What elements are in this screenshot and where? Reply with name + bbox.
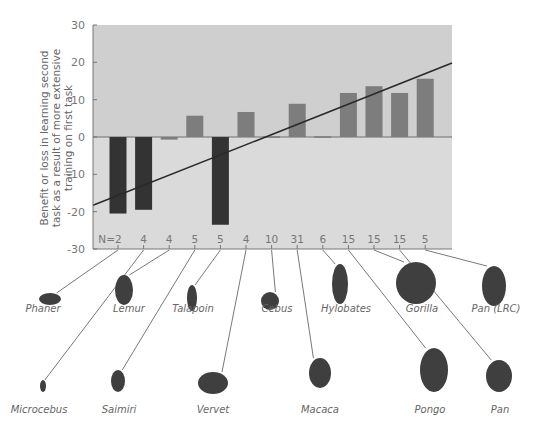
n-label: 15 (393, 233, 406, 245)
n-label: 4 (166, 233, 173, 245)
n-label: N=2 (98, 233, 121, 245)
n-label: 15 (342, 233, 355, 245)
leader-line (323, 250, 335, 264)
y-axis-label-line-3: training on first task (62, 18, 74, 258)
n-label: 5 (217, 233, 224, 245)
bar-pongo (340, 93, 357, 137)
y-axis-label-line-2: task as a result of more extensive (50, 18, 62, 258)
animal-label-pongo: Pongo (415, 404, 446, 415)
hylobates-icon (332, 264, 348, 304)
y-axis-label-line-1: Benefit or loss in learning second (38, 18, 50, 258)
microcebus-icon (40, 380, 46, 392)
bar-pan-lrc (417, 79, 434, 137)
leader-line (297, 250, 313, 358)
animal-label-gorilla: Gorilla (406, 303, 438, 314)
bar-lemur (161, 137, 178, 140)
pan-icon (486, 360, 512, 392)
animal-label-saimiri: Saimiri (102, 404, 137, 415)
bar-chart: 3020100-10-20-30 N=244554103161515155 (0, 0, 536, 436)
animal-label-pan-lrc: Pan (LRC) (472, 303, 521, 314)
animal-label-cebus: Cebus (261, 303, 292, 314)
animal-label-hylobates: Hylobates (321, 303, 371, 314)
n-label: 10 (265, 233, 278, 245)
vervet-icon (198, 372, 228, 394)
n-label: 4 (140, 233, 147, 245)
bar-vervet (238, 112, 255, 137)
gorilla-icon (396, 262, 436, 304)
animal-label-lemur: Lemur (113, 303, 145, 314)
bar-saimiri (186, 116, 203, 137)
saimiri-icon (111, 370, 125, 392)
animal-label-microcebus: Microcebus (11, 404, 68, 415)
leader-line (195, 250, 220, 285)
bar-hylobates (314, 136, 331, 138)
n-label: 31 (291, 233, 304, 245)
animal-label-vervet: Vervet (197, 404, 230, 415)
leader-line (374, 250, 404, 262)
n-label: 4 (243, 233, 250, 245)
animal-label-phaner: Phaner (25, 303, 60, 314)
leader-line (222, 250, 246, 372)
n-label: 5 (191, 233, 198, 245)
bar-pan (391, 93, 408, 137)
n-label: 6 (319, 233, 326, 245)
n-label: 15 (367, 233, 380, 245)
animal-label-macaca: Macaca (301, 404, 339, 415)
leader-line (425, 250, 487, 266)
animal-icons (39, 262, 512, 394)
leader-line (129, 250, 169, 275)
bar-phaner (110, 137, 127, 214)
y-axis-label: Benefit or loss in learning second task … (38, 18, 74, 258)
macaca-icon (309, 358, 331, 388)
animal-label-pan: Pan (491, 404, 510, 415)
n-label: 5 (422, 233, 429, 245)
lemur-icon (115, 275, 133, 305)
pongo-icon (420, 348, 448, 392)
bar-macaca (289, 104, 306, 137)
pan-lrc-icon (482, 266, 506, 306)
bar-talapoin (212, 137, 229, 225)
animal-label-talapoin: Talapoin (172, 303, 214, 314)
leader-line (272, 250, 276, 292)
y-tick-label: 0 (78, 131, 85, 144)
bar-microcebus (135, 137, 152, 210)
leader-line (45, 250, 144, 380)
